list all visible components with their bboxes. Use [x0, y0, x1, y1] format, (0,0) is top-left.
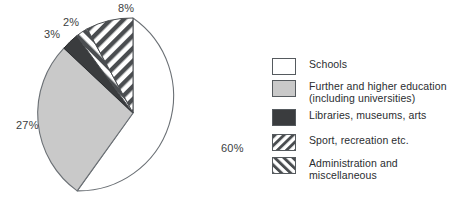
dark-gray-swatch — [272, 109, 296, 126]
pie-label-schools: 60% — [221, 142, 244, 154]
legend-item-label: Sport, recreation etc. — [309, 133, 409, 146]
forward-hatch-icon — [273, 135, 295, 150]
backward-hatch-icon — [273, 158, 295, 173]
legend-item-further-higher-education: Further and higher education (including … — [272, 79, 459, 105]
legend-item-schools: Schools — [272, 57, 459, 75]
legend-item-label: Administration and miscellaneous — [309, 156, 398, 182]
pie-label-libraries-museums-arts: 3% — [44, 28, 60, 40]
light-gray-swatch — [272, 80, 296, 97]
legend-item-label: Schools — [309, 57, 347, 70]
legend-item-sport-recreation: Sport, recreation etc. — [272, 133, 459, 151]
pie-label-further-higher-education: 27% — [16, 119, 39, 131]
chart-legend: Schools Further and higher education (in… — [272, 57, 459, 182]
pie-label-administration-miscellaneous: 8% — [118, 2, 134, 14]
pie-label-sport-recreation: 2% — [63, 16, 79, 28]
forward-hatch-swatch — [272, 134, 296, 151]
backward-hatch-swatch — [272, 157, 296, 174]
legend-item-administration-miscellaneous: Administration and miscellaneous — [272, 156, 459, 182]
pie-chart-figure: 60% 27% 3% 2% 8% Schools Further and hig… — [0, 0, 459, 218]
legend-item-label: Further and higher education (including … — [309, 79, 447, 105]
pie-slices — [38, 18, 174, 191]
white-swatch — [272, 58, 296, 75]
legend-item-label: Libraries, museums, arts — [309, 108, 426, 121]
legend-item-libraries-museums-arts: Libraries, museums, arts — [272, 108, 459, 126]
